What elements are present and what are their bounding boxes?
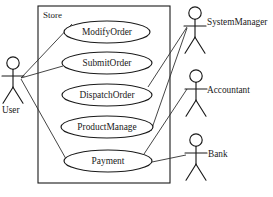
- actor-leg-right-user: [13, 87, 23, 103]
- actor-head-bank: [190, 134, 202, 146]
- use-case-product-manage[interactable]: ProductManage: [61, 116, 153, 138]
- actor-leg-left-system-manager: [185, 37, 195, 53]
- use-case-diagram: Store ModifyOrderSubmitOrderDispatchOrde…: [0, 0, 273, 197]
- use-case-label-product-manage: ProductManage: [77, 122, 136, 132]
- actor-head-accountant: [190, 70, 202, 82]
- actor-leg-right-bank: [196, 164, 206, 180]
- actor-bank[interactable]: Bank: [185, 134, 228, 180]
- actor-label-bank: Bank: [208, 149, 228, 159]
- actor-leg-right-accountant: [196, 100, 206, 116]
- actor-label-accountant: Accountant: [207, 85, 250, 95]
- use-case-label-dispatch-order: DispatchOrder: [79, 90, 135, 100]
- actor-system-manager[interactable]: SystemManager: [184, 7, 268, 53]
- use-case-dispatch-order[interactable]: DispatchOrder: [62, 84, 152, 106]
- actor-head-system-manager: [189, 7, 201, 19]
- use-case-submit-order[interactable]: SubmitOrder: [62, 52, 152, 74]
- use-case-modify-order[interactable]: ModifyOrder: [64, 21, 150, 43]
- use-case-label-payment: Payment: [92, 156, 125, 166]
- actor-leg-right-system-manager: [195, 37, 205, 53]
- use-case-payment[interactable]: Payment: [64, 150, 152, 172]
- actor-user[interactable]: User: [2, 57, 24, 115]
- actor-leg-left-bank: [186, 164, 196, 180]
- actor-leg-left-accountant: [186, 100, 196, 116]
- actor-accountant[interactable]: Accountant: [185, 70, 250, 116]
- boundary-label: Store: [43, 10, 62, 20]
- actor-head-user: [7, 57, 19, 69]
- actor-leg-left-user: [3, 87, 13, 103]
- use-case-label-modify-order: ModifyOrder: [82, 27, 133, 37]
- use-case-label-submit-order: SubmitOrder: [83, 58, 133, 68]
- actor-label-user: User: [2, 105, 20, 115]
- actor-label-system-manager: SystemManager: [207, 17, 268, 27]
- diagram-canvas: Store ModifyOrderSubmitOrderDispatchOrde…: [0, 0, 273, 197]
